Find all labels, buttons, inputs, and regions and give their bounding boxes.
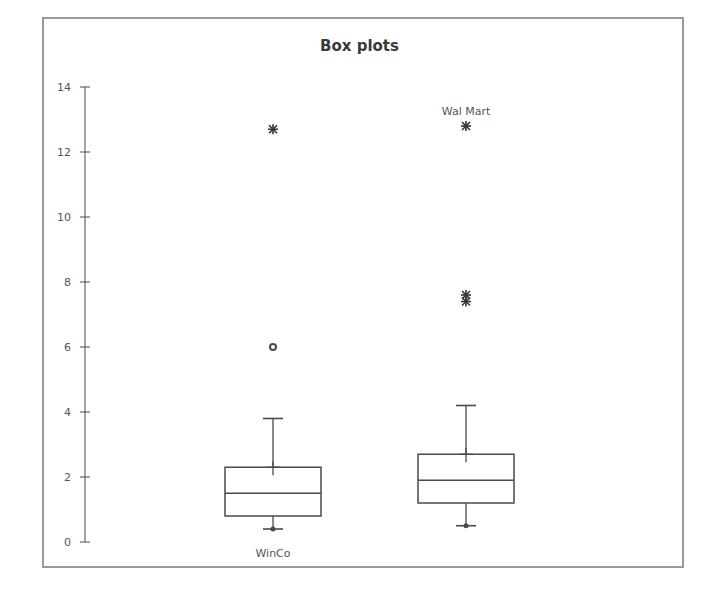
y-tick-label: 4 <box>64 406 71 419</box>
category-label: WinCo <box>255 547 290 560</box>
y-tick-label: 0 <box>64 536 71 549</box>
y-tick-label: 14 <box>57 81 71 94</box>
category-label: Wal Mart <box>442 105 491 118</box>
y-tick-label: 6 <box>64 341 71 354</box>
outlier-star <box>461 121 471 131</box>
box-plot-chart: 02468101214 WinCoWal Mart <box>0 0 719 594</box>
outlier-star <box>268 124 278 134</box>
outlier-circle <box>270 344 276 350</box>
y-tick-label: 2 <box>64 471 71 484</box>
y-tick-label: 10 <box>57 211 71 224</box>
min-point <box>464 523 469 528</box>
y-tick-label: 12 <box>57 146 71 159</box>
box-winco: WinCo <box>225 124 321 560</box>
box-plots: WinCoWal Mart <box>225 105 514 560</box>
y-axis: 02468101214 <box>57 81 90 549</box>
outlier-star <box>461 290 471 300</box>
min-point <box>271 527 276 532</box>
box-wal-mart: Wal Mart <box>418 105 514 528</box>
y-tick-label: 8 <box>64 276 71 289</box>
